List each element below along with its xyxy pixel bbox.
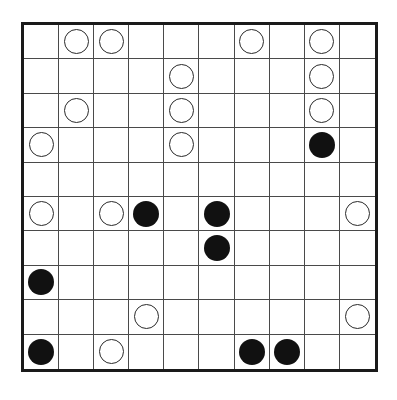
grid-cell[interactable] <box>129 266 164 300</box>
grid-cell[interactable] <box>235 163 270 197</box>
grid-cell[interactable] <box>235 300 270 334</box>
grid-cell[interactable] <box>235 231 270 265</box>
grid-cell[interactable] <box>235 266 270 300</box>
grid-cell[interactable] <box>305 300 340 334</box>
grid-cell[interactable] <box>59 266 94 300</box>
grid-cell[interactable] <box>59 59 94 93</box>
grid-cell[interactable] <box>129 300 164 334</box>
grid-cell[interactable] <box>235 59 270 93</box>
grid-cell[interactable] <box>340 300 375 334</box>
grid-cell[interactable] <box>164 59 199 93</box>
grid-cell[interactable] <box>129 25 164 59</box>
grid-cell[interactable] <box>235 128 270 162</box>
grid-cell[interactable] <box>199 163 234 197</box>
grid-cell[interactable] <box>59 128 94 162</box>
grid-cell[interactable] <box>199 266 234 300</box>
grid-cell[interactable] <box>24 231 59 265</box>
grid-cell[interactable] <box>340 128 375 162</box>
grid-cell[interactable] <box>305 335 340 369</box>
grid-cell[interactable] <box>94 231 129 265</box>
grid-cell[interactable] <box>199 231 234 265</box>
grid-cell[interactable] <box>24 335 59 369</box>
grid-cell[interactable] <box>340 266 375 300</box>
grid-cell[interactable] <box>129 231 164 265</box>
grid-cell[interactable] <box>199 94 234 128</box>
grid-cell[interactable] <box>340 163 375 197</box>
grid-cell[interactable] <box>270 197 305 231</box>
grid-cell[interactable] <box>340 25 375 59</box>
grid-cell[interactable] <box>270 163 305 197</box>
grid-cell[interactable] <box>164 231 199 265</box>
grid-cell[interactable] <box>164 128 199 162</box>
grid-cell[interactable] <box>24 25 59 59</box>
grid-cell[interactable] <box>305 128 340 162</box>
grid-cell[interactable] <box>94 163 129 197</box>
grid-cell[interactable] <box>94 25 129 59</box>
grid-cell[interactable] <box>129 128 164 162</box>
grid-cell[interactable] <box>305 231 340 265</box>
grid-cell[interactable] <box>270 94 305 128</box>
grid-cell[interactable] <box>340 335 375 369</box>
grid-cell[interactable] <box>24 163 59 197</box>
grid-cell[interactable] <box>305 59 340 93</box>
grid-cell[interactable] <box>270 25 305 59</box>
grid-cell[interactable] <box>94 197 129 231</box>
grid-cell[interactable] <box>24 300 59 334</box>
grid-cell[interactable] <box>164 163 199 197</box>
grid-cell[interactable] <box>199 197 234 231</box>
grid-cell[interactable] <box>270 59 305 93</box>
grid-cell[interactable] <box>129 197 164 231</box>
grid-cell[interactable] <box>129 59 164 93</box>
grid-cell[interactable] <box>235 335 270 369</box>
grid-cell[interactable] <box>235 94 270 128</box>
grid-cell[interactable] <box>59 94 94 128</box>
grid-cell[interactable] <box>340 231 375 265</box>
grid-cell[interactable] <box>129 163 164 197</box>
grid-cell[interactable] <box>94 128 129 162</box>
grid-cell[interactable] <box>59 335 94 369</box>
grid-cell[interactable] <box>164 335 199 369</box>
grid-cell[interactable] <box>235 25 270 59</box>
grid-cell[interactable] <box>164 197 199 231</box>
grid-cell[interactable] <box>59 163 94 197</box>
grid-cell[interactable] <box>94 335 129 369</box>
grid-cell[interactable] <box>199 335 234 369</box>
grid-cell[interactable] <box>305 94 340 128</box>
grid-cell[interactable] <box>305 25 340 59</box>
grid-cell[interactable] <box>129 335 164 369</box>
grid-cell[interactable] <box>270 128 305 162</box>
grid-cell[interactable] <box>24 94 59 128</box>
grid-cell[interactable] <box>164 25 199 59</box>
grid-cell[interactable] <box>340 94 375 128</box>
grid-cell[interactable] <box>199 128 234 162</box>
grid-cell[interactable] <box>59 300 94 334</box>
grid-cell[interactable] <box>164 94 199 128</box>
grid-cell[interactable] <box>270 266 305 300</box>
grid-cell[interactable] <box>94 94 129 128</box>
grid-cell[interactable] <box>129 94 164 128</box>
grid-cell[interactable] <box>270 231 305 265</box>
grid-cell[interactable] <box>94 59 129 93</box>
grid-cell[interactable] <box>59 25 94 59</box>
grid-cell[interactable] <box>340 197 375 231</box>
grid-cell[interactable] <box>94 266 129 300</box>
grid-cell[interactable] <box>94 300 129 334</box>
grid-cell[interactable] <box>164 300 199 334</box>
grid-cell[interactable] <box>24 128 59 162</box>
grid-cell[interactable] <box>305 163 340 197</box>
grid-cell[interactable] <box>164 266 199 300</box>
grid-cell[interactable] <box>199 300 234 334</box>
grid-cell[interactable] <box>340 59 375 93</box>
grid-cell[interactable] <box>24 197 59 231</box>
grid-cell[interactable] <box>305 197 340 231</box>
grid-cell[interactable] <box>24 59 59 93</box>
grid-cell[interactable] <box>59 197 94 231</box>
grid-cell[interactable] <box>199 59 234 93</box>
grid-cell[interactable] <box>235 197 270 231</box>
grid-cell[interactable] <box>24 266 59 300</box>
grid-cell[interactable] <box>270 300 305 334</box>
grid-cell[interactable] <box>270 335 305 369</box>
grid-cell[interactable] <box>59 231 94 265</box>
grid-cell[interactable] <box>305 266 340 300</box>
grid-cell[interactable] <box>199 25 234 59</box>
